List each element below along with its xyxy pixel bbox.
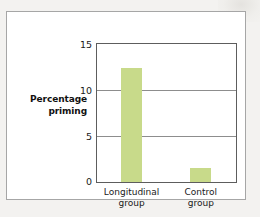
y-axis-title: Percentage priming [15,94,87,117]
gridline-10 [97,90,236,91]
y-tick-label-10: 10 [80,84,92,95]
x-tick-label-1-line-1: group [185,198,218,209]
plot-area: 051015LongitudinalgroupControlgroup [96,43,237,183]
y-tick-label-15: 15 [80,39,92,50]
bar-0 [121,68,142,183]
x-tick-label-0-line-0: Longitudinal [104,187,159,198]
y-axis-title-line-1: Percentage [15,94,87,106]
figure-panel: Percentage priming 051015Longitudinalgro… [6,11,246,200]
x-tick-label-0: Longitudinalgroup [104,187,159,208]
x-tick-label-1-line-0: Control [185,187,218,198]
y-tick-label-0: 0 [86,176,92,187]
bar-1 [190,168,211,182]
x-tick-label-0-line-1: group [104,198,159,209]
plot-inner: 051015LongitudinalgroupControlgroup [97,44,236,182]
x-tick-label-1: Controlgroup [185,187,218,208]
y-tick-label-5: 5 [86,130,92,141]
gridline-5 [97,136,236,137]
y-axis-title-line-2: priming [15,106,87,118]
